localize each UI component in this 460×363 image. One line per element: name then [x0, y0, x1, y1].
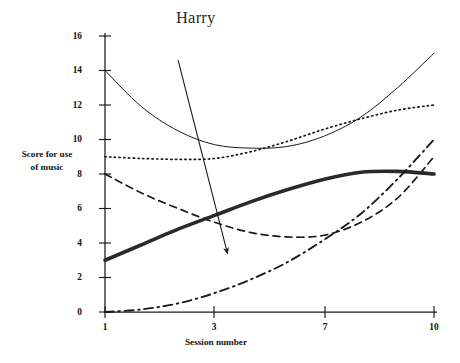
harry-arrow	[178, 60, 227, 253]
chart-figure: Harry Score for use of music Session num…	[0, 0, 460, 363]
series-dash-dot-curve	[105, 140, 434, 313]
series-dotted-curve	[105, 105, 434, 159]
data-series-group	[105, 53, 434, 312]
series-solid-thin-curve	[105, 53, 434, 148]
series-thick-solid-curve	[105, 171, 434, 260]
plot-area	[0, 0, 460, 363]
